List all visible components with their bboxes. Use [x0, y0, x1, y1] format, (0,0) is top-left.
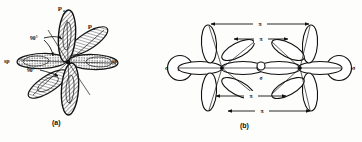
sigma-center-circle — [257, 62, 265, 70]
label-pz-subscript: z — [63, 8, 65, 13]
angle-label-lower: 90° — [27, 67, 35, 73]
figure-canvas: 90° 90° p z p x sp sp (a) H σ H σ — [0, 0, 362, 142]
label-sp-right: sp — [112, 58, 118, 64]
label-px: p — [88, 22, 92, 30]
caption-b: (b) — [240, 122, 249, 130]
caption-a: (a) — [52, 119, 61, 127]
pi-label-bottom-inner: π — [249, 93, 252, 99]
label-pz: p — [58, 4, 62, 12]
sigma-label-center: σ — [260, 75, 263, 81]
pi-label-bottom-outer: π — [260, 108, 263, 114]
nucleus-dot-left — [220, 66, 224, 70]
angle-label-upper: 90° — [30, 35, 38, 41]
nucleus-dot-right — [298, 66, 302, 70]
pi-label-top-inner: π — [259, 36, 262, 42]
label-sp-left: sp — [4, 58, 10, 64]
orbital-figure: 90° 90° p z p x sp sp (a) H σ H σ — [0, 0, 362, 142]
pi-label-top-outer: π — [258, 21, 261, 27]
